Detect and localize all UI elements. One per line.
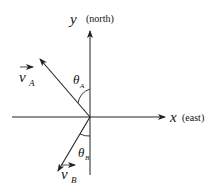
x-axis-label: x — [169, 109, 177, 125]
y-axis-label: y — [68, 11, 77, 27]
vector-diagram: y (north) x (east) v A v B θ A θ B — [0, 0, 224, 195]
vector-b-label: v B — [61, 165, 77, 185]
svg-text:v: v — [19, 69, 26, 85]
svg-text:θ: θ — [73, 72, 80, 87]
svg-text:B: B — [71, 175, 77, 185]
svg-text:A: A — [28, 78, 35, 88]
vector-b-arrow — [58, 117, 90, 171]
theta-a-arc — [78, 89, 90, 103]
theta-b-arc — [80, 134, 90, 136]
theta-a-label: θ A — [73, 72, 85, 90]
svg-text:A: A — [79, 82, 85, 90]
y-axis-annotation: (north) — [86, 13, 114, 25]
theta-b-label: θ B — [78, 145, 90, 162]
vector-a-label: v A — [19, 67, 35, 88]
svg-text:B: B — [85, 154, 90, 162]
svg-text:v: v — [61, 166, 68, 182]
x-axis-annotation: (east) — [182, 112, 204, 124]
svg-text:θ: θ — [78, 145, 85, 160]
